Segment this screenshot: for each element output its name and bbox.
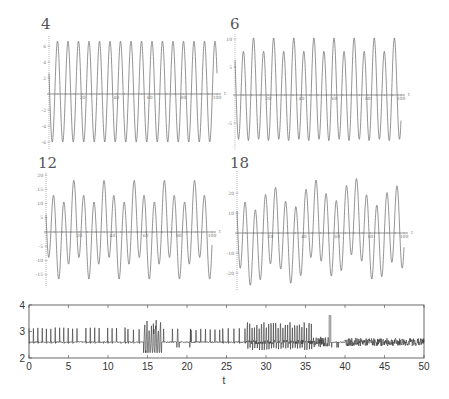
x-tick-label: 50: [418, 361, 430, 372]
x-tick-label: 40: [113, 95, 119, 100]
y-tick-label: 5: [40, 215, 43, 220]
y-tick-label: 3: [19, 326, 25, 337]
x-tick-label: 80: [181, 95, 187, 100]
x-tick-label: 100: [400, 234, 409, 239]
x-tick-label: 40: [110, 233, 116, 238]
signal-line: [235, 38, 401, 141]
x-tick-label: 40: [339, 361, 351, 372]
y-tick-label: 10: [37, 201, 43, 206]
x-tick-label: 100: [397, 96, 406, 101]
x-tick-label: 5: [66, 361, 72, 372]
y-tick-label: -4: [42, 124, 47, 129]
x-tick-label: 35: [300, 361, 312, 372]
x-tick-label: 10: [102, 361, 114, 372]
x-tick-label: 100: [213, 95, 222, 100]
panel-label-6: 6: [230, 15, 240, 33]
panel-label-4: 4: [41, 15, 51, 33]
x-tick-label: 80: [368, 234, 374, 239]
x-tick-label: 45: [379, 361, 391, 372]
y-tick-label: 4: [43, 60, 46, 65]
x-tick-label: 15: [142, 361, 154, 372]
x-axis-label-t: t: [223, 375, 226, 386]
y-tick-label: 20: [228, 191, 234, 196]
signal-line: [49, 41, 217, 142]
plot-panel-18: 20406080100t2010-10-20: [227, 171, 413, 291]
signal-line: [46, 180, 212, 279]
x-axis-label: t: [411, 230, 413, 235]
x-tick-label: 80: [365, 96, 371, 101]
y-tick-label: -5: [228, 121, 233, 126]
x-axis-label: t: [219, 229, 221, 234]
y-tick-label: 5: [229, 65, 232, 70]
y-tick-label: 2: [19, 353, 25, 364]
panel-label-18: 18: [230, 154, 249, 172]
x-tick-label: 25: [221, 361, 233, 372]
y-tick-label: -20: [227, 271, 234, 276]
x-axis-label: t: [408, 92, 410, 97]
y-tick-label: -2: [42, 108, 47, 113]
signal-line: [29, 316, 424, 353]
x-tick-label: 60: [334, 234, 340, 239]
signal-line: [237, 179, 404, 286]
y-tick-label: 15: [37, 187, 43, 192]
figure: 4 6 12 18 20406080100t642-2-4-6 20406080…: [0, 0, 449, 399]
y-tick-label: 20: [37, 173, 43, 178]
x-tick-label: 100: [208, 233, 217, 238]
plot-panel-4: 20406080100t642-2-4-6: [42, 36, 226, 150]
y-tick-label: 2: [43, 76, 46, 81]
x-tick-label: 30: [260, 361, 272, 372]
y-tick-label: -5: [39, 244, 44, 249]
plot-frame: [29, 305, 424, 358]
panel-label-12: 12: [38, 154, 57, 172]
x-tick-label: 60: [143, 233, 149, 238]
x-tick-label: 20: [181, 361, 193, 372]
y-tick-label: -10: [227, 251, 234, 256]
y-tick-label: 4: [19, 300, 25, 311]
x-tick-label: 0: [26, 361, 32, 372]
y-tick-label: 10: [228, 211, 234, 216]
y-tick-label: -6: [42, 140, 47, 145]
x-tick-label: 40: [301, 234, 307, 239]
y-tick-label: -15: [36, 272, 43, 277]
x-tick-label: 20: [80, 95, 86, 100]
plot-panel-bottom-timeseries: 05101520253035404550234: [19, 300, 430, 373]
y-tick-label: 10: [226, 37, 232, 42]
y-tick-label: -10: [36, 258, 43, 263]
plot-panel-6: 20406080100t105-5: [226, 34, 410, 149]
x-tick-label: 60: [147, 95, 153, 100]
plot-panel-12: 20406080100t2015105-5-10-15: [36, 173, 221, 288]
y-tick-label: 6: [43, 44, 46, 49]
x-axis-label: t: [224, 91, 226, 96]
